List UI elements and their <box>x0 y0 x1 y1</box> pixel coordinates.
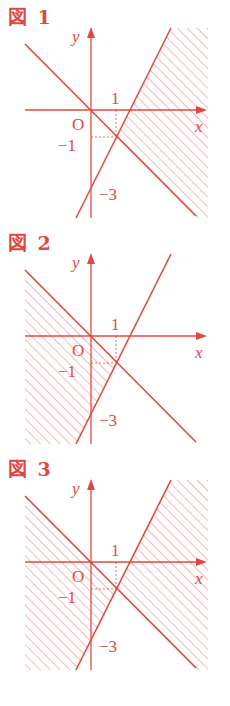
y-intercept-neg3-label: −3 <box>99 637 117 656</box>
figure-3-title: 図 3 <box>8 454 53 481</box>
y-axis-arrow-icon <box>87 27 95 38</box>
figure-2: y x O 1 −1 −3 図 2 <box>0 226 230 452</box>
figure-3: y x O 1 −1 −3 図 3 <box>0 452 230 678</box>
figure-1: y x O 1 −1 −3 図 1 <box>0 0 230 226</box>
x-axis-label: x <box>194 569 203 588</box>
figure-2-title: 図 2 <box>8 228 53 255</box>
y-axis-arrow-icon <box>87 253 95 264</box>
y-tick-neg1-label: −1 <box>58 362 76 381</box>
y-axis-label: y <box>70 27 80 46</box>
figure-1-title: 図 1 <box>8 2 53 29</box>
origin-label: O <box>72 115 84 134</box>
x-tick-1-label: 1 <box>111 89 120 108</box>
origin-label: O <box>72 567 84 586</box>
y-axis-arrow-icon <box>87 479 95 490</box>
figure-2-graph: y x O 1 −1 −3 <box>0 226 230 452</box>
x-axis-label: x <box>194 117 203 136</box>
x-axis-arrow-icon <box>196 332 207 340</box>
y-axis-label: y <box>70 253 80 272</box>
figure-1-graph: y x O 1 −1 −3 <box>0 0 230 226</box>
origin-label: O <box>72 341 84 360</box>
x-axis-label: x <box>194 343 203 362</box>
figure-3-graph: y x O 1 −1 −3 <box>0 452 230 678</box>
y-intercept-neg3-label: −3 <box>99 411 117 430</box>
x-tick-1-label: 1 <box>111 315 120 334</box>
y-intercept-neg3-label: −3 <box>99 185 117 204</box>
y-axis-label: y <box>70 479 80 498</box>
y-tick-neg1-label: −1 <box>58 588 76 607</box>
x-tick-1-label: 1 <box>111 541 120 560</box>
y-tick-neg1-label: −1 <box>58 136 76 155</box>
